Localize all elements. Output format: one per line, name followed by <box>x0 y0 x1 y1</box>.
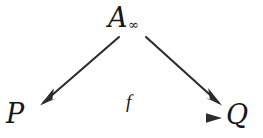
edge-a-infinity-to-q-arrowhead <box>206 88 222 106</box>
edge-a-infinity-to-p-line <box>44 37 120 103</box>
commutative-diagram: A∞ P Q f <box>0 0 263 138</box>
edge-a-infinity-to-q <box>146 37 222 106</box>
node-a-infinity-base: A <box>108 2 128 33</box>
node-a-infinity: A∞ <box>108 4 139 31</box>
edge-p-to-q-arrowhead <box>206 113 222 123</box>
node-a-infinity-subscript: ∞ <box>128 17 139 32</box>
edge-p-to-q <box>40 113 222 123</box>
edge-a-infinity-to-p <box>40 37 119 106</box>
edge-label-f: f <box>126 92 131 111</box>
edge-a-infinity-to-p-arrowhead <box>40 88 57 105</box>
node-q: Q <box>226 101 249 128</box>
edge-a-infinity-to-q-line <box>146 37 219 103</box>
node-p: P <box>6 100 25 127</box>
